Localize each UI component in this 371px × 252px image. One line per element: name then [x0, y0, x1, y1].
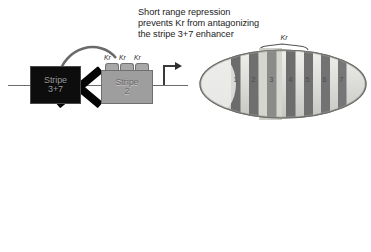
embryo-top-stripe-label-4: 4: [286, 76, 295, 83]
caption-top-line-3: the stripe 3+7 enhancer: [138, 29, 259, 40]
kr-site-label-1: Kr: [104, 54, 111, 61]
enhancer-stripe2-top: Stripe 2: [101, 70, 153, 104]
enhancer-stripe37-top: Stripe 3+7: [30, 66, 81, 104]
embryo-top-stripe-label-1: 1: [231, 76, 240, 83]
caption-top: Short range repression prevents Kr from …: [138, 7, 259, 41]
panel-top: Short range repression prevents Kr from …: [0, 0, 371, 126]
embryo-top-stripe-label-3: 3: [267, 76, 276, 83]
caption-top-line-2: prevents Kr from antagonizing: [138, 18, 259, 29]
embryo-top-stripe-label-2: 2: [249, 76, 258, 83]
enhancer-stripe37-label-line2: 3+7: [48, 85, 63, 95]
kr-site-label-2: Kr: [119, 54, 126, 61]
promoter-stem: [163, 66, 165, 85]
kr-domain-label-top: Kr: [258, 34, 310, 41]
promoter-arrow-top: [163, 65, 185, 85]
gene-construct-top: Stripe 3+7 Kr Kr Kr Stripe 2: [0, 44, 196, 114]
promoter-arrowhead-icon: [175, 62, 182, 70]
embryo-top-stripe-label-5: 5: [303, 76, 312, 83]
caption-top-line-1: Short range repression: [138, 7, 259, 18]
embryo-top: 1 2 3 4 5 6 7: [198, 48, 368, 120]
embryo-top-stripe-label-6: 6: [320, 76, 329, 83]
panel-bottom: Eliminating the space between the two en…: [0, 126, 371, 252]
enhancer-stripe2-label-line2: 2: [125, 87, 130, 97]
embryo-top-stripe-label-7: 7: [337, 76, 346, 83]
kr-site-label-3: Kr: [134, 54, 141, 61]
